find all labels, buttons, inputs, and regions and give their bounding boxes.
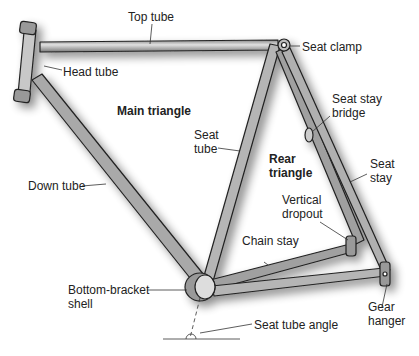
label-chain-stay: Chain stay xyxy=(242,234,299,248)
label-head-tube: Head tube xyxy=(63,65,118,79)
head-tube xyxy=(18,30,36,94)
label-down-tube: Down tube xyxy=(28,179,85,193)
label-seat-stay-bridge: Seat stay bridge xyxy=(332,92,382,120)
label-seat-stay: Seat stay xyxy=(370,157,395,185)
vertical-dropout xyxy=(346,236,356,256)
seat-stay-bridge xyxy=(305,128,313,142)
label-seat-tube: Seat tube xyxy=(194,128,219,156)
label-rear-triangle: Rear triangle xyxy=(269,152,312,180)
label-top-tube: Top tube xyxy=(128,10,174,24)
label-seat-clamp: Seat clamp xyxy=(302,40,362,54)
label-bottom-bracket-shell: Bottom-bracket shell xyxy=(68,283,149,311)
label-seat-tube-angle: Seat tube angle xyxy=(254,318,338,332)
label-main-triangle: Main triangle xyxy=(117,104,191,118)
label-gear-hanger: Gear hanger xyxy=(368,300,405,328)
label-vertical-dropout: Vertical dropout xyxy=(282,193,323,221)
top-tube xyxy=(40,40,278,52)
